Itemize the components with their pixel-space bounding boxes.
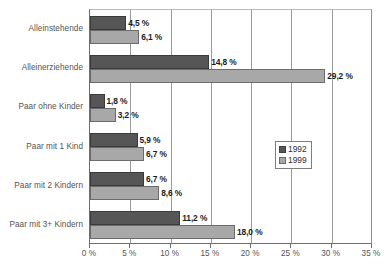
- bar-chart: AlleinstehendeAlleinerziehendePaar ohne …: [0, 0, 389, 275]
- category-axis-label: Paar mit 2 Kindern: [0, 181, 83, 190]
- category-axis: AlleinstehendeAlleinerziehendePaar ohne …: [0, 8, 86, 244]
- bar-value-label: 6,7 %: [146, 147, 167, 161]
- x-axis-tick-label: 35 %: [362, 249, 381, 258]
- bar-1992: [90, 94, 105, 108]
- bar-1992: [90, 133, 138, 147]
- legend-label: 1999: [288, 155, 307, 166]
- bar-1999: [90, 69, 325, 83]
- bar-value-label: 5,9 %: [140, 133, 161, 147]
- category-axis-label: Paar mit 3+ Kindern: [0, 220, 83, 229]
- bar-value-label: 6,1 %: [141, 30, 162, 44]
- bar-1999: [90, 30, 139, 44]
- bar-value-label: 18,0 %: [237, 225, 262, 239]
- x-axis-tick-label: 25 %: [281, 249, 300, 258]
- bar-1999: [90, 108, 116, 122]
- x-axis-tick-mark: [331, 244, 332, 248]
- bar-group: 11,2 %18,0 %: [90, 211, 371, 239]
- legend-item-1999: 1999: [279, 155, 307, 166]
- bars-layer: 4,5 %6,1 %14,8 %29,2 %1,8 %3,2 %5,9 %6,7…: [90, 10, 371, 243]
- x-axis-tick-mark: [89, 244, 90, 248]
- bar-value-label: 4,5 %: [128, 16, 149, 30]
- x-axis-tick-mark: [170, 244, 171, 248]
- legend-swatch-icon: [279, 157, 286, 164]
- bar-group: 4,5 %6,1 %: [90, 16, 371, 44]
- bar-value-label: 11,2 %: [182, 211, 207, 225]
- bar-group: 14,8 %29,2 %: [90, 55, 371, 83]
- category-axis-label: Alleinstehende: [0, 24, 83, 33]
- bar-value-label: 3,2 %: [118, 108, 139, 122]
- x-axis-tick-label: 15 %: [200, 249, 219, 258]
- chart-legend: 19921999: [275, 141, 312, 169]
- bar-value-label: 6,7 %: [146, 172, 167, 186]
- x-axis-tick-mark: [290, 244, 291, 248]
- x-axis-tick-mark: [210, 244, 211, 248]
- bar-1999: [90, 147, 144, 161]
- category-axis-label: Alleinerziehende: [0, 63, 83, 72]
- x-axis-tick-label: 30 %: [321, 249, 340, 258]
- bar-value-label: 14,8 %: [211, 55, 236, 69]
- bar-1999: [90, 225, 235, 239]
- bar-1992: [90, 172, 144, 186]
- x-axis-tick-mark: [371, 244, 372, 248]
- x-axis-tick-label: 5 %: [122, 249, 136, 258]
- bar-1992: [90, 55, 209, 69]
- bar-group: 5,9 %6,7 %: [90, 133, 371, 161]
- legend-swatch-icon: [279, 146, 286, 153]
- bar-1992: [90, 16, 126, 30]
- category-axis-label: Paar ohne Kinder: [0, 102, 83, 111]
- legend-item-1992: 1992: [279, 144, 307, 155]
- bar-value-label: 29,2 %: [327, 69, 352, 83]
- bar-value-label: 1,8 %: [107, 94, 128, 108]
- bar-1992: [90, 211, 180, 225]
- x-axis-tick-label: 20 %: [241, 249, 260, 258]
- x-axis-tick-label: 0 %: [82, 249, 96, 258]
- legend-label: 1992: [288, 144, 307, 155]
- x-axis-tick-mark: [129, 244, 130, 248]
- plot-area: 4,5 %6,1 %14,8 %29,2 %1,8 %3,2 %5,9 %6,7…: [89, 9, 372, 244]
- bar-group: 1,8 %3,2 %: [90, 94, 371, 122]
- category-axis-label: Paar mit 1 Kind: [0, 142, 83, 151]
- x-axis-tick-label: 10 %: [160, 249, 179, 258]
- bar-value-label: 8,6 %: [161, 186, 182, 200]
- x-axis-tick-mark: [250, 244, 251, 248]
- bar-1999: [90, 186, 159, 200]
- value-axis: 0 %5 %10 %15 %20 %25 %30 %35 %: [89, 244, 373, 266]
- bar-group: 6,7 %8,6 %: [90, 172, 371, 200]
